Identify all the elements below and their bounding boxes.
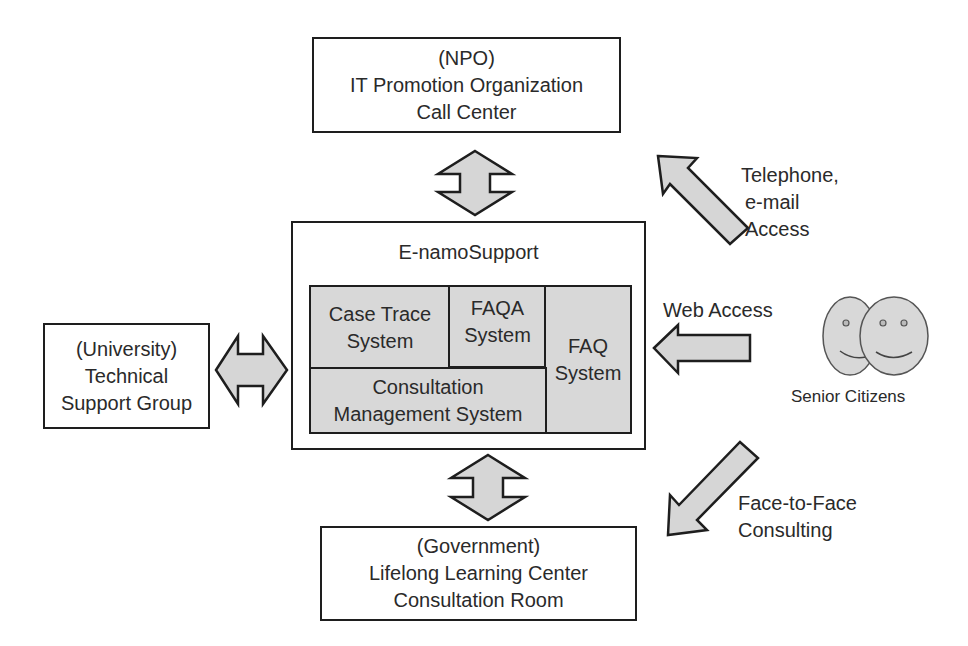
case-trace-system-module: Case Trace System <box>309 285 451 370</box>
e-namosupport-title: E-namoSupport <box>293 239 644 266</box>
consultation-management-module: Consultation Management System <box>309 367 547 434</box>
telephone-access-arrow <box>658 156 748 244</box>
bidirectional-arrow-university <box>216 336 287 404</box>
web-access-label: Web Access <box>663 297 773 324</box>
faq-line2: System <box>555 360 622 387</box>
faqa-line1: FAQA <box>471 295 524 322</box>
case-trace-line2: System <box>347 328 414 355</box>
telephone-access-label: Telephone, e-mail Access <box>741 162 839 243</box>
bidirectional-arrow-government <box>451 455 525 520</box>
university-support-box: (University) Technical Support Group <box>43 323 210 429</box>
government-org-label: Lifelong Learning Center <box>369 560 588 587</box>
faq-system-module: FAQ System <box>544 285 632 434</box>
government-unit-label: Consultation Room <box>393 587 563 614</box>
web-access-arrow <box>654 325 750 373</box>
face-right-icon <box>860 297 928 375</box>
npo-call-center-box: (NPO) IT Promotion Organization Call Cen… <box>312 37 621 133</box>
faqa-line2: System <box>464 322 531 349</box>
faq-line1: FAQ <box>568 333 608 360</box>
telephone-line2: e-mail <box>741 189 839 216</box>
face-to-face-label: Face-to-Face Consulting <box>738 490 857 544</box>
bidirectional-arrow-npo <box>438 151 512 215</box>
consultation-line1: Consultation <box>372 374 483 401</box>
consultation-line2: Management System <box>334 401 523 428</box>
university-type-label: (University) <box>76 336 177 363</box>
university-line2-label: Technical <box>85 363 168 390</box>
university-line3-label: Support Group <box>61 390 192 417</box>
faqa-system-module: FAQA System <box>448 285 547 368</box>
case-trace-line1: Case Trace <box>329 301 431 328</box>
government-type-label: (Government) <box>417 533 540 560</box>
telephone-line1: Telephone, <box>741 162 839 189</box>
government-consultation-box: (Government) Lifelong Learning Center Co… <box>320 526 637 621</box>
npo-type-label: (NPO) <box>438 45 495 72</box>
telephone-line3: Access <box>741 216 839 243</box>
senior-citizens-icon <box>823 297 928 375</box>
npo-unit-label: Call Center <box>416 99 516 126</box>
senior-citizens-label: Senior Citizens <box>791 383 905 410</box>
face-to-face-line1: Face-to-Face <box>738 490 857 517</box>
face-to-face-line2: Consulting <box>738 517 857 544</box>
npo-org-label: IT Promotion Organization <box>350 72 583 99</box>
